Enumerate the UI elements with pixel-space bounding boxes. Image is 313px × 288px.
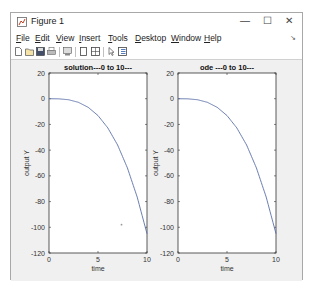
y-tick-label: -60 (164, 172, 174, 179)
axes-box (178, 73, 276, 253)
x-axis-label: time (220, 265, 233, 272)
y-tick-label: 0 (170, 95, 174, 102)
y-tick-label: -20 (164, 121, 174, 128)
x-axis-label: time (91, 265, 104, 272)
y-tick-label: 20 (166, 70, 174, 77)
new-figure-icon[interactable] (14, 47, 23, 56)
plots-svg: 200-20-40-60-80-100-1200510solution---0 … (11, 60, 304, 281)
zoom-icon[interactable] (63, 47, 72, 56)
dock-arrow-icon[interactable]: ↘ (290, 34, 296, 42)
plot-title: ode ---0 to 10--- (200, 63, 255, 72)
y-tick-label: -120 (160, 250, 174, 257)
y-axis-label: output Y (152, 150, 160, 176)
window-title: Figure 1 (31, 16, 64, 26)
menu-window-label: indow (179, 33, 201, 43)
plot-title: solution---0 to 10--- (64, 63, 132, 72)
print-icon[interactable] (47, 47, 56, 56)
y-tick-label: -80 (164, 198, 174, 205)
maximize-button[interactable]: ☐ (259, 15, 275, 26)
y-tick-label: 0 (41, 95, 45, 102)
x-tick-label: 5 (225, 256, 229, 263)
close-button[interactable]: ✕ (281, 15, 297, 26)
figure-toolbar (11, 45, 302, 60)
x-tick-label: 0 (47, 256, 51, 263)
menu-window-mnemonic: W (171, 33, 179, 43)
menu-desktop[interactable]: Desktop (135, 33, 166, 43)
axes-box (49, 73, 147, 253)
menu-tools[interactable]: Tools (108, 33, 128, 43)
menu-bar: File Edit View Insert Tools Desktop Wind… (11, 31, 302, 45)
menu-desktop-label: esktop (141, 33, 166, 43)
title-bar[interactable]: Figure 1 — ☐ ✕ (11, 13, 302, 31)
x-tick-label: 5 (96, 256, 100, 263)
axes-ode[interactable]: 200-20-40-60-80-100-1200510ode ---0 to 1… (152, 63, 280, 272)
y-tick-label: -80 (35, 198, 45, 205)
x-tick-label: 10 (272, 256, 280, 263)
menu-file-label: ile (21, 33, 30, 43)
menu-insert-label: nsert (81, 33, 100, 43)
y-tick-label: -120 (31, 250, 45, 257)
menu-help[interactable]: Help (204, 33, 221, 43)
y-axis-label: output Y (23, 150, 31, 176)
y-tick-label: -100 (31, 224, 45, 231)
figure-window: Figure 1 — ☐ ✕ File Edit View Insert Too… (10, 12, 303, 280)
menu-help-label: elp (210, 33, 221, 43)
menu-window[interactable]: Window (171, 33, 201, 43)
axes-solution[interactable]: 200-20-40-60-80-100-1200510solution---0 … (23, 63, 151, 272)
y-tick-label: -100 (160, 224, 174, 231)
stray-point (121, 224, 123, 226)
y-tick-label: -20 (35, 121, 45, 128)
menu-file[interactable]: File (16, 33, 30, 43)
x-tick-label: 0 (176, 256, 180, 263)
open-file-icon[interactable] (25, 47, 34, 56)
y-tick-label: -40 (35, 147, 45, 154)
hide-plot-tools-icon[interactable] (79, 47, 88, 56)
figure-canvas[interactable]: 200-20-40-60-80-100-1200510solution---0 … (11, 60, 302, 281)
y-tick-label: 20 (37, 70, 45, 77)
save-icon[interactable] (36, 47, 45, 56)
toolbar-separator (103, 47, 104, 57)
menu-insert[interactable]: Insert (79, 33, 100, 43)
y-tick-label: -40 (164, 147, 174, 154)
show-plot-tools-icon[interactable] (91, 47, 100, 56)
toolbar-separator (59, 47, 60, 57)
y-tick-label: -60 (35, 172, 45, 179)
menu-tools-label: ools (112, 33, 128, 43)
insert-legend-icon[interactable] (118, 47, 127, 56)
edit-plot-pointer-icon[interactable] (107, 47, 116, 56)
menu-view-label: iew (62, 33, 75, 43)
menu-view[interactable]: View (56, 33, 74, 43)
minimize-button[interactable]: — (237, 15, 253, 26)
matlab-figure-icon (17, 17, 27, 27)
menu-edit-label: dit (41, 33, 50, 43)
menu-edit[interactable]: Edit (35, 33, 50, 43)
toolbar-separator (75, 47, 76, 57)
x-tick-label: 10 (143, 256, 151, 263)
